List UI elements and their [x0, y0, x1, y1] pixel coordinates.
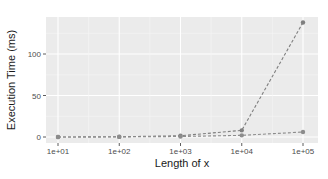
x-tick-label: 1e+05 — [292, 147, 315, 156]
plot-panel — [46, 17, 318, 143]
data-point — [56, 135, 60, 139]
chart: 050100 1e+011e+021e+031e+041e+05 Length … — [0, 0, 328, 179]
x-tick-label: 1e+02 — [108, 147, 131, 156]
data-point — [117, 135, 121, 139]
data-point — [301, 130, 305, 134]
data-point — [240, 128, 244, 132]
data-point — [301, 20, 305, 24]
y-tick-label: 50 — [32, 92, 41, 101]
y-axis: 050100 — [28, 50, 46, 142]
x-axis-title: Length of x — [155, 157, 210, 169]
y-tick-label: 0 — [37, 133, 42, 142]
x-axis: 1e+011e+021e+031e+041e+05 — [47, 143, 315, 156]
y-axis-title: Execution Time (ms) — [5, 30, 17, 130]
x-tick-label: 1e+04 — [231, 147, 254, 156]
x-tick-label: 1e+01 — [47, 147, 70, 156]
x-tick-label: 1e+03 — [169, 147, 192, 156]
data-point — [240, 133, 244, 137]
data-point — [178, 134, 182, 138]
y-tick-label: 100 — [28, 50, 42, 59]
